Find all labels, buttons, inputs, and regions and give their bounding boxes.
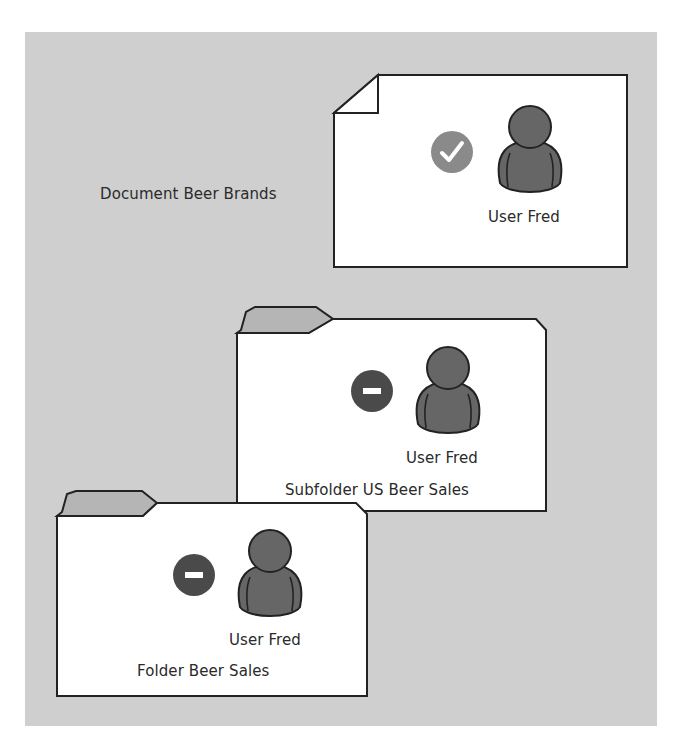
user-icon	[234, 527, 306, 621]
folder-user-label: User Fred	[229, 631, 301, 649]
folder-shape	[0, 0, 685, 743]
minus-icon	[172, 553, 216, 597]
folder-label: Folder Beer Sales	[137, 662, 269, 680]
